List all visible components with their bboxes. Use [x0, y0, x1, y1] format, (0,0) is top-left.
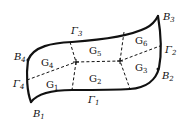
label-g1: G1 — [46, 79, 58, 92]
dashed-line-middle — [76, 61, 120, 62]
boundary-gamma4 — [27, 60, 31, 102]
dashed-line-vertical-left — [70, 42, 76, 90]
label-g5: G5 — [89, 45, 101, 58]
label-b2: B2 — [161, 70, 174, 83]
label-g4: G4 — [41, 57, 54, 70]
label-gamma3: Γ3 — [70, 25, 83, 38]
label-b4: B4 — [13, 51, 26, 64]
label-b1: B1 — [32, 108, 45, 121]
label-g3: G3 — [135, 62, 147, 75]
boundary-gamma1 — [31, 89, 130, 102]
corner-b2-dot — [157, 68, 160, 71]
dashed-line-right — [120, 46, 160, 61]
corner-b4-dot — [27, 59, 30, 62]
label-g2: G2 — [89, 73, 101, 86]
label-b3: B3 — [162, 11, 175, 24]
domain-diagram: B1 B2 B3 B4 Γ1 Γ2 Γ3 Γ4 G1 G2 G3 G4 G5 G… — [0, 0, 183, 121]
label-g6: G6 — [135, 35, 148, 48]
label-gamma1: Γ1 — [87, 94, 99, 107]
label-gamma4: Γ4 — [12, 78, 24, 91]
boundary-gamma2 — [130, 16, 161, 89]
label-gamma2: Γ2 — [164, 44, 177, 57]
node-right — [117, 58, 123, 64]
node-left — [73, 59, 79, 65]
